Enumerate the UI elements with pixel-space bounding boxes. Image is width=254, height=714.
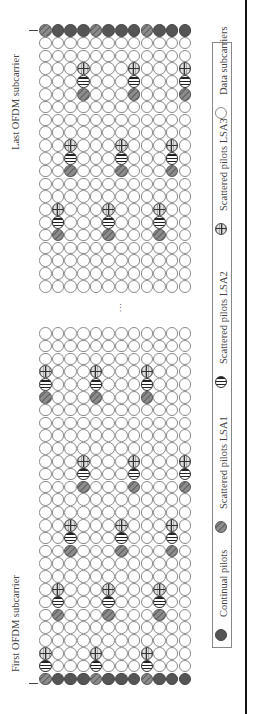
data-subcarrier xyxy=(102,267,115,280)
scattered-pilot-lsa2 xyxy=(77,75,90,88)
data-subcarrier xyxy=(39,267,52,280)
symbol-row xyxy=(39,481,191,494)
scattered-pilot-lsa1 xyxy=(179,88,192,101)
data-subcarrier xyxy=(128,378,141,391)
data-subcarrier xyxy=(115,216,128,229)
data-subcarrier xyxy=(64,280,77,293)
lsa3-pilot-icon xyxy=(215,223,227,235)
data-subcarrier xyxy=(166,596,179,609)
data-subcarrier xyxy=(39,481,52,494)
data-subcarrier xyxy=(115,280,128,293)
data-subcarrier xyxy=(115,417,128,430)
data-subcarrier xyxy=(102,242,115,255)
data-subcarrier xyxy=(141,152,154,165)
scattered-pilot-lsa3 xyxy=(166,519,179,532)
data-subcarrier xyxy=(141,429,154,442)
data-subcarrier xyxy=(179,378,192,391)
symbol-row xyxy=(39,101,191,114)
symbol-row xyxy=(39,190,191,203)
data-subcarrier xyxy=(153,570,166,583)
data-subcarrier xyxy=(166,280,179,293)
data-subcarrier xyxy=(115,455,128,468)
data-subcarrier xyxy=(153,404,166,417)
data-subcarrier xyxy=(90,340,103,353)
data-subcarrier xyxy=(115,429,128,442)
data-subcarrier xyxy=(77,429,90,442)
scattered-pilot-lsa3 xyxy=(141,365,154,378)
data-subcarrier xyxy=(77,391,90,404)
symbol-row xyxy=(39,62,191,75)
scattered-pilot-lsa2 xyxy=(52,596,65,609)
data-subcarrier xyxy=(179,50,192,63)
symbol-row xyxy=(39,203,191,216)
scattered-pilot-lsa1 xyxy=(153,609,166,622)
data-subcarrier xyxy=(64,101,77,114)
data-subcarrier xyxy=(102,178,115,191)
last-subcarrier-label: Last OFDM subcarrier xyxy=(10,54,21,150)
symbol-row xyxy=(39,621,191,634)
scattered-pilot-lsa2 xyxy=(39,378,52,391)
data-subcarrier xyxy=(77,519,90,532)
data-subcarrier xyxy=(102,557,115,570)
data-subcarrier xyxy=(115,442,128,455)
scattered-pilot-lsa3 xyxy=(102,583,115,596)
data-subcarrier xyxy=(179,340,192,353)
data-subcarrier xyxy=(141,114,154,127)
continual-pilot xyxy=(77,673,90,686)
data-subcarrier xyxy=(102,88,115,101)
data-subcarrier xyxy=(166,429,179,442)
data-subcarrier xyxy=(77,139,90,152)
data-subcarrier xyxy=(39,75,52,88)
data-subcarrier xyxy=(77,50,90,63)
data-subcarrier xyxy=(52,114,65,127)
data-subcarrier xyxy=(52,647,65,660)
data-subcarrier xyxy=(64,88,77,101)
data-subcarrier xyxy=(141,340,154,353)
data-subcarrier xyxy=(64,647,77,660)
data-subcarrier xyxy=(153,280,166,293)
scattered-pilot-lsa1 xyxy=(39,391,52,404)
symbol-row xyxy=(39,519,191,532)
data-subcarrier xyxy=(64,340,77,353)
data-subcarrier xyxy=(77,152,90,165)
data-subcarrier xyxy=(141,596,154,609)
data-subcarrier xyxy=(102,660,115,673)
data-subcarrier xyxy=(166,353,179,366)
data-subcarrier xyxy=(141,506,154,519)
data-subcarrier xyxy=(115,126,128,139)
data-subcarrier xyxy=(39,417,52,430)
data-subcarrier xyxy=(153,327,166,340)
data-subcarrier xyxy=(90,178,103,191)
data-subcarrier xyxy=(64,254,77,267)
data-subcarrier xyxy=(52,75,65,88)
scattered-pilot-lsa3 xyxy=(52,203,65,216)
data-subcarrier xyxy=(90,634,103,647)
data-subcarrier xyxy=(115,101,128,114)
page-rule xyxy=(245,0,247,714)
data-subcarrier xyxy=(115,557,128,570)
data-subcarrier xyxy=(77,570,90,583)
data-subcarrier xyxy=(64,203,77,216)
data-subcarrier xyxy=(153,353,166,366)
data-subcarrier xyxy=(166,660,179,673)
data-subcarrier xyxy=(90,506,103,519)
lower-subcarrier-grid xyxy=(39,327,191,685)
data-subcarrier xyxy=(153,62,166,75)
legend-label: Scattered pilots LSA1 xyxy=(218,416,229,509)
data-subcarrier xyxy=(179,621,192,634)
data-subcarrier xyxy=(141,481,154,494)
scattered-pilot-lsa2 xyxy=(166,152,179,165)
data-subcarrier xyxy=(128,50,141,63)
data-subcarrier xyxy=(153,621,166,634)
data-subcarrier xyxy=(102,101,115,114)
data-subcarrier xyxy=(77,37,90,50)
scattered-pilot-lsa2 xyxy=(179,468,192,481)
data-subcarrier xyxy=(128,596,141,609)
data-subcarrier xyxy=(77,621,90,634)
continual-pilot xyxy=(166,673,179,686)
data-subcarrier xyxy=(77,353,90,366)
data-subcarrier xyxy=(153,519,166,532)
symbol-row xyxy=(39,609,191,622)
scattered-pilot-lsa2 xyxy=(179,75,192,88)
data-subcarrier xyxy=(102,417,115,430)
